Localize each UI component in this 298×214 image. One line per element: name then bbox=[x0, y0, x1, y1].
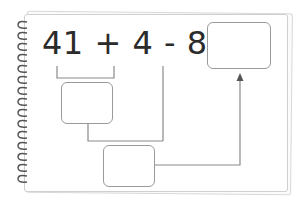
arrow-up-icon bbox=[237, 73, 244, 81]
connector-lines bbox=[0, 0, 298, 214]
